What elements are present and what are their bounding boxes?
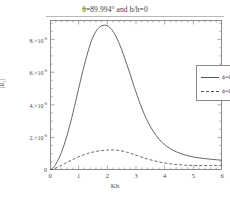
y-tick-label: 6.×10-8	[30, 68, 47, 76]
x-tick-label: 5	[192, 172, 195, 179]
legend-box: ϕ=0.1 ϕ=0.7	[196, 65, 230, 101]
x-tick-label: 0	[48, 172, 51, 179]
x-tick-label: 1	[77, 172, 80, 179]
plot-area: ϕ=0.1 ϕ=0.7	[50, 20, 222, 170]
title-underline-divider	[46, 16, 224, 17]
legend-entry-0: ϕ=0.1	[201, 71, 230, 83]
y-tick-label: 2.×10-8	[30, 133, 47, 141]
y-tick-label: 4.×10-8	[30, 101, 47, 109]
y-tick-label: 8.×10-8	[30, 36, 47, 44]
chart-title: θ=89.994° and b/h=0	[0, 5, 230, 14]
x-tick-label: 4	[163, 172, 166, 179]
legend-label-0: ϕ=0.1	[222, 74, 230, 80]
x-tick-label: 2	[106, 172, 109, 179]
legend-line-dashed-icon	[201, 88, 219, 95]
x-tick-label: 3	[134, 172, 137, 179]
x-tick-label: 6	[220, 172, 223, 179]
legend-line-solid-icon	[201, 74, 219, 81]
figure-root: θ=89.994° and b/h=0 |R1| ϕ=0.1 ϕ=0.7 02.…	[0, 0, 230, 198]
legend-label-1: ϕ=0.7	[222, 88, 230, 94]
x-axis-label: Kh	[0, 182, 230, 190]
y-tick-label: 0	[44, 167, 47, 173]
legend-entry-1: ϕ=0.7	[201, 85, 230, 97]
y-axis-label: |R1|	[0, 79, 7, 88]
